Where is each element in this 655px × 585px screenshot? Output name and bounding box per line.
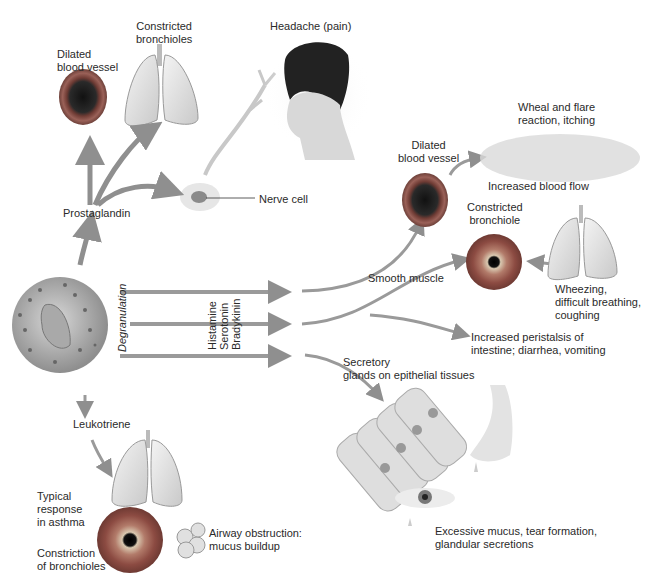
label-excessive-mucus: Excessive mucus, tear formation, glandul… [435, 525, 597, 551]
lungs-right [548, 205, 617, 280]
constricted-bronchiole-bottom [97, 507, 163, 573]
label-constricted-bronchiole: Constricted bronchiole [467, 201, 523, 227]
label-typical-response: Typical response in asthma [37, 490, 85, 529]
mast-cell [12, 277, 108, 373]
label-constriction-of-bronchioles: Constriction of bronchioles [37, 547, 106, 573]
wheal-skin-patch [480, 134, 640, 182]
label-peristalsis: Increased peristalsis of intestine; diar… [471, 331, 606, 357]
head-headache [263, 40, 373, 160]
label-wheal-flare: Wheal and flare reaction, itching [518, 101, 595, 127]
label-nerve-cell: Nerve cell [259, 193, 308, 206]
label-constricted-bronchioles: Constricted bronchioles [136, 20, 192, 46]
label-secretory-glands: Secretory glands on epithelial tissues [343, 356, 474, 382]
dilated-blood-vessel-right [402, 173, 448, 227]
mediator-arrows [120, 292, 280, 356]
label-leukotriene: Leukotriene [73, 418, 131, 431]
label-airway-obstruction: Airway obstruction: mucus buildup [209, 527, 302, 553]
constricted-bronchiole-right [466, 234, 522, 290]
label-degranulation: Degranulation [116, 284, 128, 353]
label-bradykinin: Bradykinin [230, 299, 242, 350]
lungs-bottom [112, 430, 182, 506]
label-headache: Headache (pain) [270, 20, 351, 33]
label-dilated-blood-vessel-top: Dilated blood vessel [57, 48, 118, 74]
nerve-cell [180, 70, 275, 211]
label-histamine: Histamine [206, 301, 218, 350]
prostaglandin-arrows [80, 130, 170, 265]
label-smooth-muscle: Smooth muscle [368, 272, 444, 285]
label-prostaglandin: Prostaglandin [63, 207, 130, 220]
label-serotonin: Serotonin [218, 303, 230, 350]
dilated-blood-vessel-top [59, 69, 107, 125]
label-wheezing: Wheezing, difficult breathing, coughing [555, 283, 641, 322]
alveoli-mucus [177, 523, 205, 558]
lungs-top [125, 44, 198, 126]
label-increased-blood-flow: Increased blood flow [488, 180, 589, 193]
label-dilated-blood-vessel-right: Dilated blood vessel [398, 139, 459, 165]
